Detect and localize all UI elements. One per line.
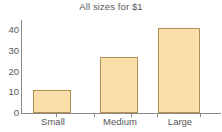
y-axis-tick-labels: 40 30 20 10 0 [0,0,19,132]
y-tick-label-20: 20 [1,67,19,77]
y-tick-label-30: 30 [1,46,19,56]
bar-chart: All sizes for $1 40 30 20 10 0 Small Med… [0,0,222,132]
bars-layer [21,20,221,113]
x-axis-line [21,113,221,114]
y-tick-label-10: 10 [1,87,19,97]
bar-large[interactable] [158,28,200,113]
bar-small[interactable] [33,90,71,113]
chart-title: All sizes for $1 [0,1,222,12]
y-tick-label-40: 40 [1,25,19,35]
x-label-large: Large [140,117,220,127]
bar-medium[interactable] [100,57,138,113]
